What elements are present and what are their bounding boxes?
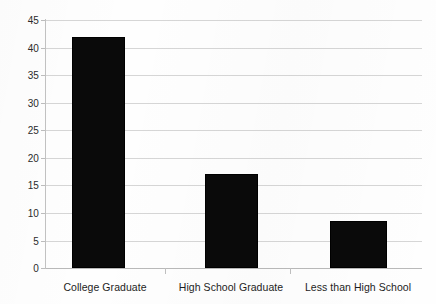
y-tick-mark-45 xyxy=(41,20,45,21)
y-tick-label-40: 40 xyxy=(5,43,39,54)
bar-college-graduate xyxy=(72,37,125,269)
gridline-0 xyxy=(45,268,422,269)
bar-high-school-graduate xyxy=(205,174,258,268)
y-tick-label-30: 30 xyxy=(5,98,39,109)
y-tick-label-5: 5 xyxy=(5,236,39,247)
y-tick-mark-30 xyxy=(41,103,45,104)
x-tick-separator-2 xyxy=(290,268,291,274)
y-tick-label-10: 10 xyxy=(5,208,39,219)
y-tick-label-25: 25 xyxy=(5,125,39,136)
y-tick-mark-20 xyxy=(41,158,45,159)
x-tick-separator-1 xyxy=(165,268,166,274)
y-tick-label-45: 45 xyxy=(5,15,39,26)
x-tick-label-less-than-high-school: Less than High School xyxy=(305,281,411,293)
bar-less-than-high-school xyxy=(330,221,387,268)
y-tick-mark-25 xyxy=(41,130,45,131)
x-axis-labels: College Graduate High School Graduate Le… xyxy=(45,281,422,299)
y-tick-mark-35 xyxy=(41,75,45,76)
y-tick-mark-10 xyxy=(41,213,45,214)
y-tick-label-0: 0 xyxy=(5,263,39,274)
bar-chart: 45 40 35 30 25 20 15 10 5 0 College Grad… xyxy=(0,0,436,304)
x-tick-label-college-graduate: College Graduate xyxy=(63,281,146,293)
y-axis-ticks: 45 40 35 30 25 20 15 10 5 0 xyxy=(0,20,39,268)
x-tick-label-high-school-graduate: High School Graduate xyxy=(179,281,283,293)
y-axis-line xyxy=(45,19,46,269)
y-tick-mark-5 xyxy=(41,241,45,242)
gridline-45 xyxy=(45,20,422,21)
y-tick-mark-40 xyxy=(41,48,45,49)
y-tick-mark-15 xyxy=(41,185,45,186)
y-tick-label-15: 15 xyxy=(5,180,39,191)
y-tick-label-20: 20 xyxy=(5,153,39,164)
y-tick-label-35: 35 xyxy=(5,70,39,81)
plot-area xyxy=(45,20,422,268)
y-tick-mark-0 xyxy=(41,268,45,269)
